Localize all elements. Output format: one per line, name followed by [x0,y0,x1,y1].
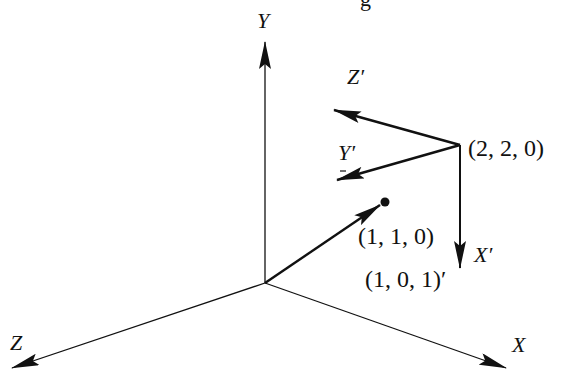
target-point-label: (1, 1, 0) [358,223,434,249]
y-axis-label: Y [257,8,272,33]
z-axis-label: Z [10,330,23,355]
target-point [381,198,390,207]
x-axis-label: X [511,332,527,357]
coordinate-diagram: g Y Z X (1, 1, 0) (2, 2, 0) Z′ Y′ X′ (1,… [0,0,576,382]
z-prime-label: Z′ [347,64,365,89]
y-prime-axis [337,145,460,180]
local-coord-label: (1, 0, 1)′ [365,266,446,292]
world-axes [12,42,506,368]
y-prime-label: Y′ [338,140,356,165]
local-origin-label: (2, 2, 0) [468,135,544,161]
x-axis [265,283,506,368]
x-prime-label: X′ [473,242,493,267]
z-axis [12,283,265,368]
partial-caption-glyph: g [360,0,371,11]
